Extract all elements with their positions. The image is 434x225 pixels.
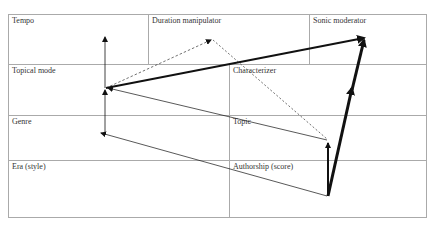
dashed-arrow-topical-to-duration bbox=[106, 40, 211, 88]
arrow-authorship-to-sonic-mid bbox=[328, 88, 352, 196]
arrow-authorship-to-genre bbox=[101, 133, 327, 196]
dashed-line-duration-to-topic bbox=[213, 40, 327, 139]
arrow-topical-to-sonic bbox=[106, 38, 364, 88]
arrows-layer bbox=[0, 0, 434, 225]
arrow-topic-to-topical bbox=[108, 88, 327, 140]
arrow-authorship-to-sonic bbox=[352, 40, 364, 90]
diagram-grid: Tempo Duration manipulator Sonic moderat… bbox=[0, 0, 434, 225]
